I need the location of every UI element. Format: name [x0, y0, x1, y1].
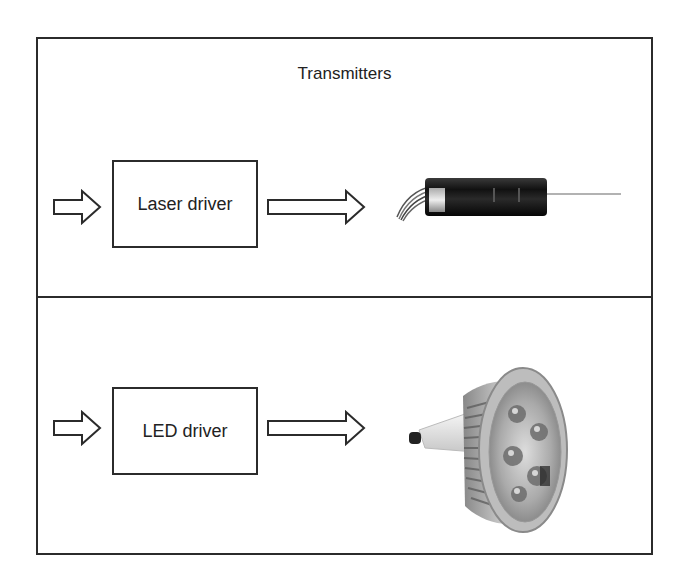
laser-input-arrow-icon	[52, 189, 104, 225]
laser-driver-label: Laser driver	[137, 194, 232, 215]
laser-diode-icon	[393, 172, 623, 224]
led-input-arrow-icon	[52, 410, 104, 446]
laser-output-arrow-icon	[266, 189, 368, 225]
led-driver-box: LED driver	[112, 387, 258, 475]
led-driver-label: LED driver	[142, 421, 227, 442]
led-bulb-icon	[405, 366, 570, 542]
led-output-arrow-icon	[266, 410, 368, 446]
diagram-title: Transmitters	[36, 64, 653, 84]
laser-driver-box: Laser driver	[112, 160, 258, 248]
section-divider	[36, 296, 653, 298]
